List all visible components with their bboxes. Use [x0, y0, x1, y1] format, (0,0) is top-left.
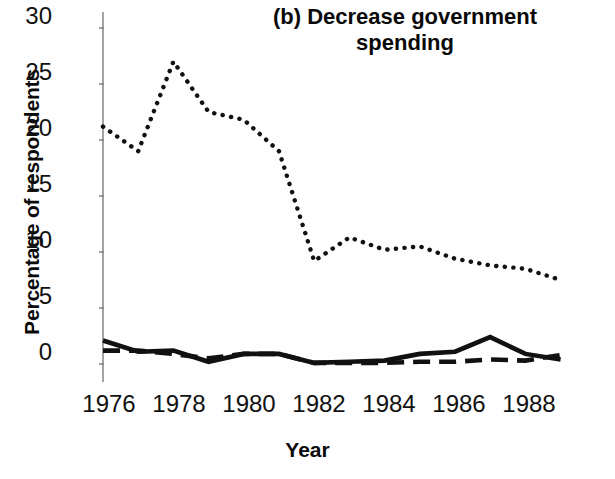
series-line-dotted	[103, 62, 561, 280]
chart-figure: (b) Decrease government spending Percent…	[0, 0, 615, 479]
plot-area	[0, 0, 615, 479]
